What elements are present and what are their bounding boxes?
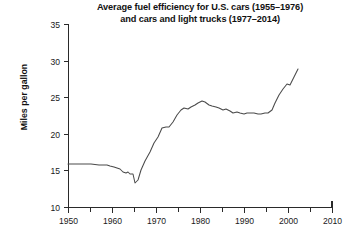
y-tick-label-25: 25 [50, 93, 60, 103]
x-tick-label-1970: 1970 [147, 216, 166, 226]
plot-area: 35 30 25 20 15 10 1950 [0, 0, 358, 243]
y-tick-group [64, 25, 68, 208]
x-tick-label-1990: 1990 [235, 216, 254, 226]
x-tick-label-1980: 1980 [191, 216, 210, 226]
y-tick-label-10: 10 [50, 203, 60, 213]
x-tick-label-2000: 2000 [279, 216, 298, 226]
x-tick-label-1960: 1960 [103, 216, 122, 226]
y-tick-label-35: 35 [50, 20, 60, 30]
x-tick-labels: 1950 1960 1970 1980 1990 2000 2010 [59, 216, 342, 226]
y-tick-label-30: 30 [50, 57, 60, 67]
y-tick-label-15: 15 [50, 166, 60, 176]
y-tick-labels: 35 30 25 20 15 10 [50, 20, 60, 213]
y-tick-label-20: 20 [50, 130, 60, 140]
x-tick-label-1950: 1950 [59, 216, 78, 226]
fuel-efficiency-line-chart: Average fuel efficiency for U.S. cars (1… [0, 0, 358, 243]
data-series-line [68, 69, 298, 183]
x-tick-label-2010: 2010 [323, 216, 342, 226]
x-tick-group [69, 208, 333, 214]
